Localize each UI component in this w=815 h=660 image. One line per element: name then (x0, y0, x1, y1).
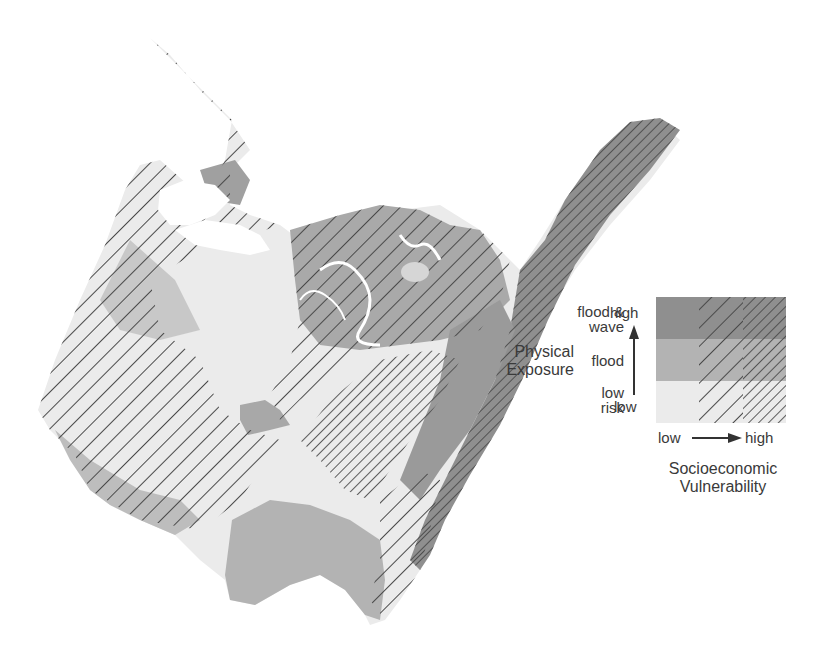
legend-x-low: low (658, 430, 681, 445)
legend-y-high: high (610, 305, 638, 320)
legend-x-high: high (745, 430, 773, 445)
legend-title-line: Exposure (468, 361, 574, 379)
legend-row-label-line: wave (566, 319, 624, 334)
legend-title-line: Physical (468, 343, 574, 361)
legend-x-arrow-icon (692, 432, 742, 444)
legend-socioeconomic-title: Socioeconomic Vulnerability (648, 460, 798, 496)
legend-row-label-flood: flood (566, 353, 624, 368)
legend-y-arrow-icon (628, 325, 640, 395)
legend-row-label-line: flood (566, 353, 624, 368)
pond (401, 262, 429, 282)
legend-physical-exposure-title: Physical Exposure (468, 343, 574, 379)
legend-hatch-high (743, 297, 786, 423)
legend-grid (656, 297, 786, 423)
legend-y-low: low (614, 399, 637, 414)
legend-title-line: Vulnerability (648, 478, 798, 496)
legend-title-line: Socioeconomic (648, 460, 798, 478)
legend-hatch-medium (699, 297, 743, 423)
